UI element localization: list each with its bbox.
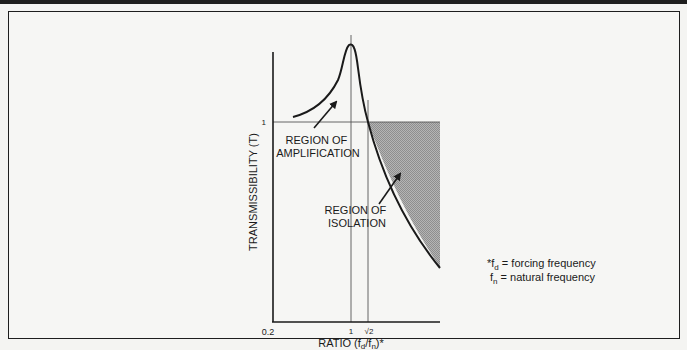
x-tick-label-1: 1 [349, 327, 354, 336]
isolation-region-shading [368, 122, 440, 268]
x-tick-label-0-2: 0.2 [262, 327, 275, 337]
legend-natural-frequency: fn = natural frequency [490, 271, 596, 286]
isolation-label: REGION OF ISOLATION [325, 204, 390, 229]
legend-forcing-frequency: *fd = forcing frequency [487, 257, 596, 272]
x-tick-label-sqrt2: √2 [365, 327, 374, 336]
amplification-label: REGION OF AMPLIFICATION [276, 134, 360, 159]
y-tick-label-1: 1 [262, 118, 267, 127]
x-axis-title: RATIO (fd/fn)* [318, 337, 384, 350]
y-axis-title: TRANSMISSIBILITY (T) [247, 133, 259, 251]
transmissibility-chart: 1 TRANSMISSIBILITY (T) 0.2 1 √2 RATIO (f… [0, 0, 687, 350]
